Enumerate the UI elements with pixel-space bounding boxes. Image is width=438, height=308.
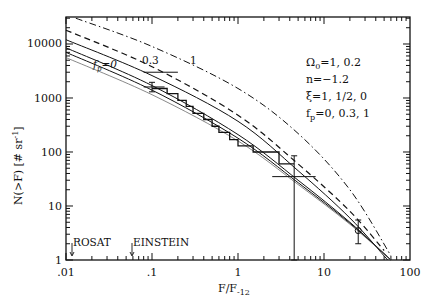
series-group — [66, 18, 391, 260]
legend-xi: ξ=1, 1/2, 0 — [306, 90, 367, 103]
y-tick-labels: 1 10 100 1000 10000 — [27, 37, 62, 267]
legend-omega: Ω0=1, 0.2 — [306, 56, 361, 71]
x-tick-label: .1 — [147, 266, 158, 279]
y-tick-label: 10 — [48, 200, 62, 213]
curve-label-0.3: 0.3 — [142, 54, 159, 66]
y-axis-label: N(>F) [# sr-1] — [11, 126, 25, 205]
y-tick-label: 1 — [55, 254, 62, 267]
legend-fp: fp=0, 0.3, 1 — [306, 107, 370, 122]
parameter-legend: Ω0=1, 0.2 n=−1.2 ξ=1, 1/2, 0 fp=0, 0.3, … — [306, 56, 370, 122]
rosat-label: ROSAT — [73, 236, 111, 248]
x-axis-label: F/F-12 — [218, 282, 250, 297]
legend-n: n=−1.2 — [306, 73, 349, 86]
x-tick-label: 10 — [317, 266, 331, 279]
x-tick-label: 1 — [235, 266, 242, 279]
y-tick-label: 1000 — [34, 92, 62, 105]
curve-label-1: 1 — [190, 54, 197, 66]
series-line — [152, 88, 294, 163]
x-tick-label: .01 — [57, 266, 75, 279]
chart: .01 .1 1 10 100 1 10 100 1000 10000 F/F-… — [0, 0, 438, 308]
curve-label-fp0: fp=0 — [92, 58, 117, 73]
einstein-label: EINSTEIN — [133, 236, 189, 248]
series-line — [66, 58, 391, 260]
x-tick-label: 100 — [400, 266, 421, 279]
y-tick-label: 10000 — [27, 37, 62, 50]
y-tick-label: 100 — [41, 146, 62, 159]
x-tick-labels: .01 .1 1 10 100 — [57, 266, 420, 279]
